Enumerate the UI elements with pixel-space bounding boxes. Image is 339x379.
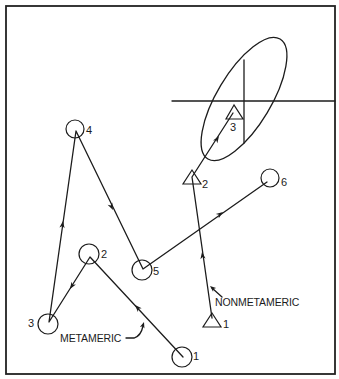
circle-marker-2 xyxy=(79,244,99,264)
triangle-label-2: 2 xyxy=(202,178,208,190)
circle-label-6: 6 xyxy=(281,176,287,188)
circle-label-1: 1 xyxy=(193,350,199,362)
metameric-path: 1 2 3 4 5 6 xyxy=(28,120,287,367)
nonmetameric-caption: NONMETAMERIC xyxy=(215,296,300,308)
metameric-caption: METAMERIC xyxy=(60,332,122,344)
tolerance-region xyxy=(172,25,335,173)
triangle-label-3: 3 xyxy=(230,121,236,133)
metameric-annotation: METAMERIC xyxy=(60,321,146,344)
triangle-label-1: 1 xyxy=(223,318,229,330)
figure-frame xyxy=(6,6,335,374)
triangle-marker-3 xyxy=(226,105,243,119)
circle-marker-6 xyxy=(261,169,279,187)
metameric-nonmetameric-diagram: 1 2 3 4 5 6 1 2 3 METAMERIC NONMETAMERIC xyxy=(0,0,339,379)
metameric-trajectory xyxy=(49,131,267,357)
circle-label-3: 3 xyxy=(28,317,34,329)
circle-label-2: 2 xyxy=(101,248,107,260)
circle-label-5: 5 xyxy=(153,265,159,277)
circle-marker-5 xyxy=(132,260,152,280)
circle-label-4: 4 xyxy=(86,124,92,136)
circle-marker-1 xyxy=(172,347,192,367)
circle-marker-3 xyxy=(38,314,58,334)
nonmetameric-annotation: NONMETAMERIC xyxy=(208,284,299,308)
metameric-pointer xyxy=(126,326,143,338)
